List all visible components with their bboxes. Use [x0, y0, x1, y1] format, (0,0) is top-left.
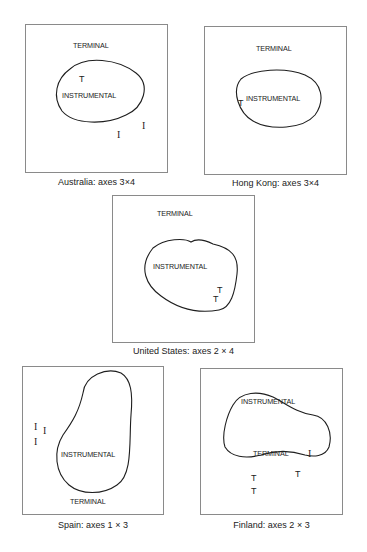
terminal-region-outline [201, 369, 344, 516]
plot-frame: TERMINAL INSTRUMENTAL T T [112, 195, 255, 343]
marker-t: T [79, 75, 85, 84]
panel-caption: United States: axes 2 × 4 [112, 346, 255, 356]
marker-i: I [142, 121, 145, 130]
marker-i: I [43, 426, 46, 435]
plot-frame: TERMINAL INSTRUMENTAL T I I [25, 24, 168, 173]
plot-frame: TERMINAL INSTRUMENTAL I I I [22, 366, 164, 515]
instrumental-region-outline [23, 367, 165, 516]
inner-region-label: INSTRUMENTAL [61, 450, 115, 459]
inner-region-label: TERMINAL [253, 449, 289, 458]
marker-t: T [213, 295, 219, 304]
inner-region-label: INSTRUMENTAL [62, 91, 116, 100]
outer-region-label: TERMINAL [256, 44, 292, 53]
marker-t: T [238, 99, 244, 108]
inner-region-label: INSTRUMENTAL [246, 94, 300, 103]
marker-t: T [251, 474, 257, 483]
panel-caption: Australia: axes 3×4 [25, 177, 168, 187]
panel-caption: Spain: axes 1 × 3 [22, 520, 164, 530]
panel-caption: Finland: axes 2 × 3 [200, 520, 343, 530]
outer-region-label: TERMINAL [73, 41, 109, 50]
marker-i: I [34, 437, 37, 446]
marker-i: I [34, 422, 37, 431]
outer-region-label: TERMINAL [157, 209, 193, 218]
marker-i: I [308, 449, 311, 458]
inner-region-label: INSTRUMENTAL [153, 262, 207, 271]
outer-region-label: INSTRUMENTAL [241, 397, 295, 406]
panel-caption: Hong Kong: axes 3×4 [204, 178, 347, 188]
marker-t: T [295, 470, 301, 479]
plot-frame: INSTRUMENTAL TERMINAL I T T T [200, 368, 343, 515]
marker-t: T [251, 487, 257, 496]
plot-frame: TERMINAL INSTRUMENTAL T [204, 26, 347, 175]
outer-region-label: TERMINAL [70, 497, 106, 506]
marker-i: I [117, 130, 120, 139]
